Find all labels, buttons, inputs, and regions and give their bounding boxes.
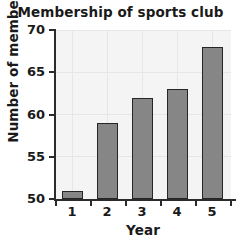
x-axis-tick-label: 4 [165,204,189,219]
chart-title: Membership of sports club [0,4,241,20]
x-axis-tick-label: 3 [130,204,154,219]
y-axis-tick [49,29,55,31]
gridline-horizontal [55,30,231,31]
x-axis-tick-label: 2 [95,204,119,219]
bar-year-4 [167,89,188,199]
bar-year-3 [132,98,153,199]
y-axis-tick [49,71,55,73]
x-axis-tick [195,200,197,206]
x-axis-title: Year [55,222,231,238]
x-axis-tick [55,200,57,206]
y-axis-tick [49,114,55,116]
bar-year-1 [62,191,83,199]
y-axis-tick-label: 50 [5,191,45,206]
x-axis-tick [230,200,232,206]
x-axis-tick [90,200,92,206]
x-axis-tick [125,200,127,206]
bar-chart: Membership of sports club 70 65 60 55 50… [0,0,241,244]
x-axis-tick-label: 1 [60,204,84,219]
plot-area [55,30,231,199]
bar-year-5 [202,47,223,199]
y-axis-title-text: Number of members [5,0,21,143]
bar-year-2 [97,123,118,199]
y-axis-tick-label: 55 [5,149,45,164]
x-axis-line [54,199,236,201]
y-axis-tick [49,156,55,158]
x-axis-tick-label: 5 [200,204,224,219]
y-axis-title: Number of members [2,0,24,139]
x-axis-tick [160,200,162,206]
